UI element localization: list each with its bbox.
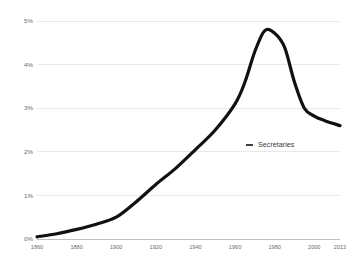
chart-container: 5%4%3%2%1%0% 186018801900192019401960198… [0, 0, 354, 267]
chart-legend[interactable]: Secretaries [246, 140, 295, 149]
series-line-secretaries [37, 29, 340, 237]
y-axis-labels-group: 5%4%3%2%1%0% [24, 17, 33, 242]
x-axis-tick-label: 1940 [189, 244, 201, 250]
series-group [37, 29, 340, 237]
y-axis-tick-label: 3% [24, 104, 33, 111]
y-axis-tick-label: 1% [24, 192, 33, 199]
x-axis-tick-label: 1880 [70, 244, 82, 250]
gridlines-group [37, 21, 340, 195]
line-chart: 5%4%3%2%1%0% 186018801900192019401960198… [0, 0, 354, 267]
y-axis-tick-label: 5% [24, 17, 33, 24]
x-axis-tick-label: 1860 [31, 244, 43, 250]
x-axis-tick-label: 2013 [334, 244, 346, 250]
x-axis-labels-group: 186018801900192019401960198020002013 [31, 244, 346, 250]
x-axis-tick-label: 1920 [150, 244, 162, 250]
x-axis-tick-label: 1980 [268, 244, 280, 250]
x-axis-tick-label: 1900 [110, 244, 122, 250]
y-axis-tick-label: 2% [24, 148, 33, 155]
y-axis-tick-label: 4% [24, 61, 33, 68]
x-axis-tick-label: 2000 [308, 244, 320, 250]
legend-label: Secretaries [258, 140, 295, 149]
y-axis-tick-label: 0% [24, 235, 33, 242]
x-axis-tick-label: 1960 [229, 244, 241, 250]
